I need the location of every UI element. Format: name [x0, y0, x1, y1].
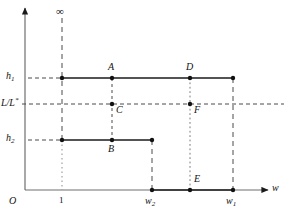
figure-canvas: ∞ h1 L/L* h2 1 w2 w1 O w A B C D E F: [0, 0, 288, 223]
x-tick-label-w1: w1: [226, 196, 236, 208]
infinity-symbol: ∞: [56, 6, 64, 17]
zero-left-marker: [150, 188, 154, 192]
point-D-marker: [188, 76, 192, 80]
point-E-marker: [188, 188, 192, 192]
zero-right-marker: [231, 188, 235, 192]
diagram-svg: [0, 0, 288, 223]
step-segments: [62, 78, 233, 190]
x-tick-label-w2: w2: [145, 196, 155, 208]
point-C-marker: [110, 102, 114, 106]
point-B-marker: [110, 138, 114, 142]
guide-lines: [22, 18, 284, 190]
x-tick-label-one: 1: [59, 196, 64, 205]
y-tick-label-L-over-Lstar: L/L*: [1, 97, 18, 108]
point-label-A: A: [108, 62, 114, 72]
h2-left-marker: [60, 138, 64, 142]
point-label-C: C: [116, 105, 123, 115]
point-label-F: F: [194, 105, 200, 115]
x-axis-label: w: [272, 183, 279, 193]
axis-lines: [25, 8, 268, 190]
y-tick-label-h1: h1: [6, 71, 15, 83]
origin-label: O: [9, 196, 16, 206]
point-label-D: D: [186, 62, 193, 72]
h1-right-marker: [231, 76, 235, 80]
point-F-marker: [188, 102, 192, 106]
data-point-markers: [60, 76, 235, 192]
point-A-marker: [110, 76, 114, 80]
h1-left-marker: [60, 76, 64, 80]
point-label-B: B: [108, 144, 114, 154]
point-label-E: E: [194, 174, 200, 184]
y-tick-label-h2: h2: [6, 133, 15, 145]
h2-right-marker: [150, 138, 154, 142]
